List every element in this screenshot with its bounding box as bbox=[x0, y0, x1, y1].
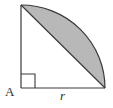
right-angle-marker bbox=[21, 74, 35, 88]
quarter-circle-diagram bbox=[0, 0, 113, 108]
geometry-figure: A r bbox=[0, 0, 113, 108]
side-length-label-r: r bbox=[60, 89, 65, 102]
vertex-label-a: A bbox=[5, 85, 14, 98]
